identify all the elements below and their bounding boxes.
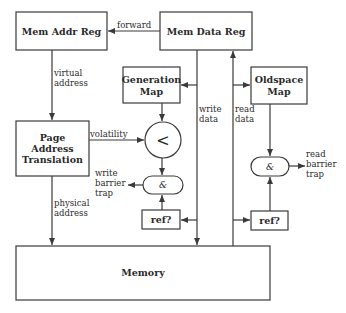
virtual-address-edge: virtual address <box>52 50 88 120</box>
oldspace-map-label-line1: Oldspace <box>255 74 304 85</box>
memory-label: Memory <box>121 267 165 278</box>
virtual-address-label-2: address <box>54 78 88 88</box>
write-data-label-2: data <box>199 114 218 124</box>
write-and-symbol: & <box>159 180 167 190</box>
read-barrier-label-2: barrier <box>306 159 337 169</box>
mem-addr-reg-label: Mem Addr Reg <box>22 26 102 37</box>
mem-addr-reg-box: Mem Addr Reg <box>16 12 107 50</box>
memory-barrier-diagram: Mem Addr Reg Mem Data Reg Generation Map… <box>0 0 346 313</box>
read-and-symbol: & <box>266 162 274 172</box>
read-data-label-2: data <box>235 114 254 124</box>
volatility-edge: volatility <box>89 129 144 140</box>
read-and-gate: & <box>251 157 289 176</box>
mem-data-reg-box: Mem Data Reg <box>160 12 252 50</box>
page-address-translation-box: Page Address Translation <box>16 121 89 176</box>
physical-address-edge: physical address <box>52 176 90 245</box>
forward-label: forward <box>117 20 152 30</box>
write-ref-label: ref? <box>151 214 172 225</box>
pat-label-line2: Address <box>30 143 73 154</box>
generation-map-label-line2: Map <box>140 86 164 97</box>
read-ref-label: ref? <box>259 215 280 226</box>
read-barrier-label-3: trap <box>306 169 325 179</box>
write-data-label-1: write <box>199 104 222 114</box>
pat-label-line3: Translation <box>22 154 83 165</box>
write-and-gate: & <box>143 176 183 194</box>
virtual-address-label-1: virtual <box>53 68 83 78</box>
generation-map-box: Generation Map <box>122 67 182 103</box>
memory-box: Memory <box>16 246 270 300</box>
physical-address-label-2: address <box>54 208 88 218</box>
forward-edge: forward <box>108 20 160 31</box>
compare-circle: < <box>145 122 181 158</box>
generation-map-label-line1: Generation <box>122 74 182 85</box>
pat-label-line1: Page <box>40 132 66 143</box>
oldspace-map-label-line2: Map <box>267 86 291 97</box>
physical-address-label-1: physical <box>54 198 90 208</box>
read-barrier-label-1: read <box>306 149 326 159</box>
write-barrier-label-2: barrier <box>95 178 126 188</box>
read-ref-check-box: ref? <box>251 211 288 230</box>
read-barrier-trap-edge: read barrier trap <box>289 149 337 179</box>
volatility-label: volatility <box>89 129 128 139</box>
read-data-label-1: read <box>235 104 255 114</box>
write-ref-check-box: ref? <box>142 210 180 229</box>
less-than-symbol: < <box>156 131 169 150</box>
write-barrier-label-1: write <box>95 168 118 178</box>
write-barrier-trap-edge: write barrier trap <box>95 168 143 198</box>
mem-data-reg-label: Mem Data Reg <box>167 26 246 37</box>
write-barrier-label-3: trap <box>95 188 114 198</box>
write-data-edge: write data <box>181 50 222 245</box>
oldspace-map-box: Oldspace Map <box>251 67 307 104</box>
